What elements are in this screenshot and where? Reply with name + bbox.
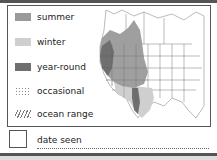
- legend-item-ocean-range: ocean range: [15, 109, 93, 119]
- date-seen-line[interactable]: [37, 148, 209, 149]
- summer-swatch: [15, 13, 31, 21]
- winter-swatch: [15, 38, 31, 46]
- legend-item-winter: winter: [15, 37, 65, 47]
- date-seen-label: date seen: [37, 135, 82, 145]
- top-border: [0, 0, 217, 3]
- seen-checkbox[interactable]: [9, 130, 27, 148]
- legend-item-occasional: occasional: [15, 86, 84, 96]
- legend-label: year-round: [37, 62, 86, 72]
- legend-label: ocean range: [37, 109, 93, 119]
- north-america-range-map: [92, 6, 208, 124]
- legend-label: winter: [37, 37, 65, 47]
- bottom-shade: [0, 156, 217, 160]
- legend-label: occasional: [37, 86, 84, 96]
- year-round-swatch: [15, 63, 31, 71]
- ocean-range-swatch: [15, 110, 31, 118]
- legend-label: summer: [37, 12, 74, 22]
- occasional-swatch: [15, 87, 31, 95]
- legend-item-summer: summer: [15, 12, 74, 22]
- legend-item-year-round: year-round: [15, 62, 86, 72]
